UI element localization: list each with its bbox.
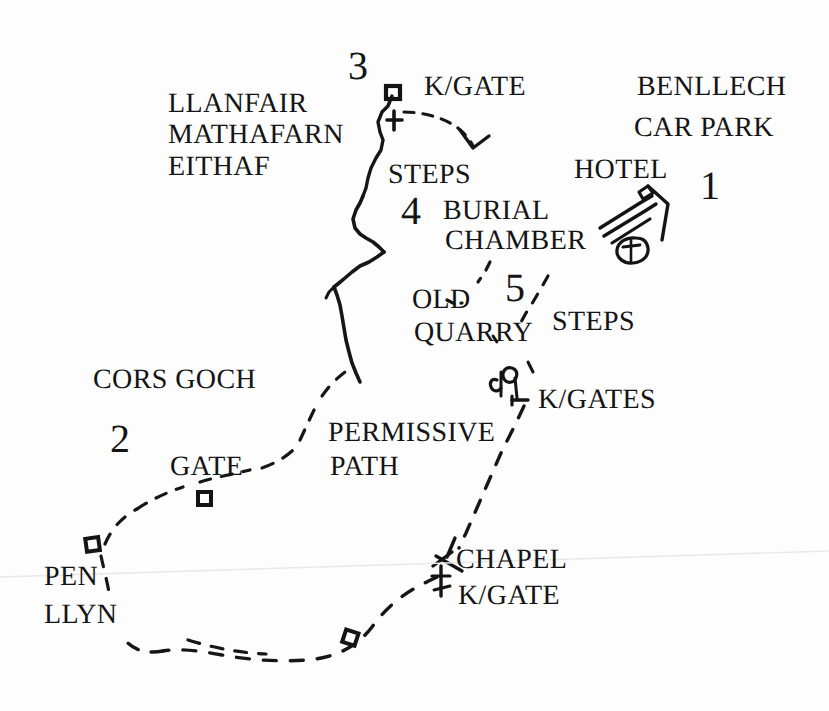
label-kgate-top: K/GATE [424, 72, 526, 102]
map-linework [0, 0, 829, 711]
waypoint-number-3: 3 [348, 45, 368, 87]
label-hotel: HOTEL [574, 155, 668, 185]
gate-square-symbol-top [386, 86, 400, 99]
label-car-park: CAR PARK [634, 113, 774, 143]
waypoint-number-2: 2 [110, 418, 130, 460]
label-gate: GATE [170, 452, 243, 482]
label-llyn: LLYN [44, 600, 117, 630]
gate-square-symbol-mid [198, 492, 211, 505]
gate-square-symbol-pen [85, 537, 100, 552]
label-burial: BURIAL [443, 196, 550, 226]
label-kgate-chapel: K/GATE [458, 581, 560, 611]
label-old: OLD [412, 285, 471, 315]
map-canvas: 3 LLANFAIR MATHAFARN EITHAF K/GATE BENLL… [0, 0, 829, 711]
church-cross-symbol [387, 111, 402, 130]
waypoint-number-1: 1 [700, 165, 720, 207]
label-llanfair-mathafarn-eithaf: LLANFAIR MATHAFARN EITHAF [168, 88, 344, 182]
dashed-top-arc [404, 112, 489, 148]
label-mathafarn: MATHAFARN [168, 119, 344, 150]
waypoint-number-5: 5 [505, 267, 525, 309]
label-eithaf: EITHAF [168, 151, 344, 182]
label-benllech: BENLLECH [637, 72, 786, 102]
waypoint-number-4: 4 [401, 190, 421, 232]
scan-line-artifact [0, 551, 829, 577]
label-chamber: CHAMBER [445, 226, 586, 256]
label-steps-lower: STEPS [552, 307, 635, 337]
label-kgates: K/GATES [538, 385, 656, 415]
label-llanfair: LLANFAIR [168, 88, 344, 119]
label-pen: PEN [44, 562, 98, 592]
gate-square-symbol-bottom [342, 629, 358, 645]
label-quarry: QUARRY [414, 318, 533, 348]
label-permissive: PERMISSIVE [328, 418, 495, 448]
label-path: PATH [330, 452, 399, 482]
dashed-permissive-path [101, 372, 524, 661]
kissing-gates-symbol [490, 362, 533, 405]
hotel-buildings-symbol [600, 186, 668, 263]
label-chapel: CHAPEL [456, 545, 567, 575]
label-steps-upper: STEPS [388, 160, 471, 190]
label-cors-goch: CORS GOCH [93, 365, 256, 395]
